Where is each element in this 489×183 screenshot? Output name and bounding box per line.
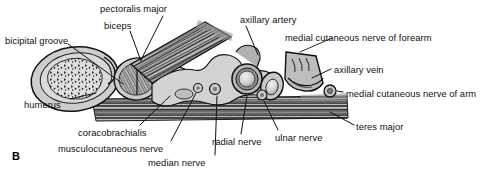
label-radial-nerve: radial nerve: [212, 137, 262, 147]
label-coracobrachialis: coracobrachialis: [78, 128, 147, 138]
label-median-nerve: median nerve: [148, 158, 205, 168]
label-medial-cutaneous-nerve-forearm: medial cutaneous nerve of forearm: [285, 33, 432, 43]
label-humerus: humerus: [24, 100, 61, 110]
label-musculocutaneous-nerve: musculocutaneous nerve: [58, 144, 163, 154]
label-pectoralis-major: pectoralis major: [100, 4, 167, 14]
label-axillary-vein: axillary vein: [334, 65, 384, 75]
label-axillary-artery: axillary artery: [240, 15, 297, 25]
panel-letter: B: [12, 150, 20, 162]
label-biceps: biceps: [104, 21, 131, 31]
label-medial-cutaneous-nerve-arm: medial cutaneous nerve of arm: [346, 89, 476, 99]
label-teres-major: teres major: [356, 122, 403, 132]
label-ulnar-nerve: ulnar nerve: [275, 133, 322, 143]
label-bicipital-groove: bicipital groove: [5, 36, 68, 46]
structure-mcn-arm: [324, 85, 336, 97]
